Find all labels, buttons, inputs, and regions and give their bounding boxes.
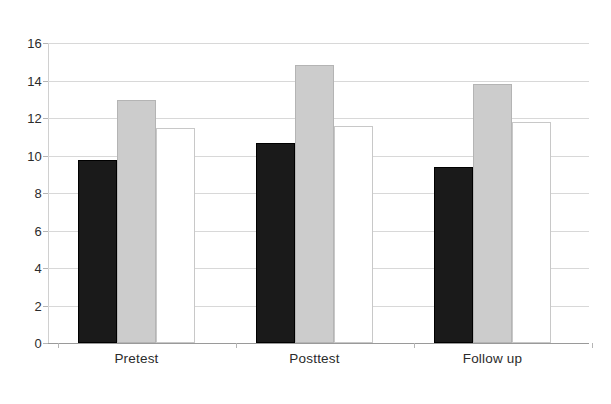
y-tick-label: 4: [8, 262, 42, 275]
bar-chart: 0246810121416 PretestPosttestFollow up: [0, 0, 611, 404]
bar-posttest-series-1: [256, 143, 295, 343]
x-tick-label: Posttest: [245, 352, 385, 366]
y-axis-labels: 0246810121416: [0, 0, 42, 404]
bar-posttest-series-3: [334, 126, 373, 343]
y-tick-label: 0: [8, 337, 42, 350]
plot-area: [48, 43, 589, 343]
x-tick-label: Pretest: [67, 352, 207, 366]
bar-posttest-series-2: [295, 65, 334, 343]
y-tick-label: 2: [8, 299, 42, 312]
y-tick-label: 12: [8, 112, 42, 125]
bar-follow-up-series-3: [512, 122, 551, 343]
y-tick-label: 10: [8, 149, 42, 162]
y-tick-label: 8: [8, 187, 42, 200]
bar-pretest-series-3: [156, 128, 195, 343]
bar-pretest-series-1: [78, 160, 117, 343]
x-tick-label: Follow up: [423, 352, 563, 366]
x-tick-mark: [414, 343, 415, 348]
x-axis-baseline: [48, 343, 589, 344]
bar-follow-up-series-2: [473, 84, 512, 343]
y-tick-label: 14: [8, 74, 42, 87]
x-tick-mark: [236, 343, 237, 348]
y-tick-label: 6: [8, 224, 42, 237]
x-tick-mark: [58, 343, 59, 348]
grid-line: [48, 43, 589, 44]
x-tick-mark: [592, 343, 593, 348]
bar-pretest-series-2: [117, 100, 156, 343]
bar-follow-up-series-1: [434, 167, 473, 343]
y-tick-label: 16: [8, 37, 42, 50]
